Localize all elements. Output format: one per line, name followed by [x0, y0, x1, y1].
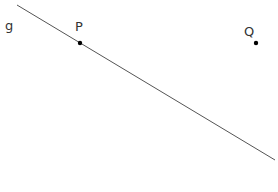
line-g-label: g [5, 18, 13, 33]
point-q-label: Q [244, 24, 254, 39]
line-g[interactable] [17, 5, 275, 160]
point-p[interactable] [78, 41, 82, 45]
point-p-label: P [75, 19, 83, 34]
geometry-canvas: g P Q [0, 0, 278, 192]
point-q[interactable] [254, 41, 258, 45]
